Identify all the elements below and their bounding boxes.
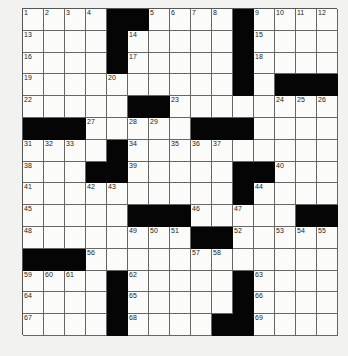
grid-cell[interactable] [65,205,86,227]
grid-cell[interactable] [44,96,65,118]
grid-cell[interactable] [275,140,296,162]
grid-cell[interactable] [317,314,338,336]
grid-cell[interactable]: 50 [149,227,170,249]
grid-cell[interactable]: 47 [233,205,254,227]
grid-cell[interactable] [275,314,296,336]
grid-cell[interactable] [86,140,107,162]
grid-cell[interactable]: 58 [212,249,233,271]
grid-cell[interactable]: 45 [23,205,44,227]
grid-cell[interactable] [317,183,338,205]
grid-cell[interactable] [191,292,212,314]
grid-cell[interactable]: 37 [212,140,233,162]
grid-cell[interactable] [296,53,317,75]
grid-cell[interactable]: 16 [23,53,44,75]
grid-cell[interactable]: 28 [128,118,149,140]
grid-cell[interactable] [149,314,170,336]
grid-cell[interactable] [170,292,191,314]
grid-cell[interactable]: 32 [44,140,65,162]
grid-cell[interactable]: 8 [212,9,233,31]
grid-cell[interactable] [275,249,296,271]
grid-cell[interactable]: 60 [44,271,65,293]
grid-cell[interactable] [107,249,128,271]
grid-cell[interactable]: 54 [296,227,317,249]
grid-cell[interactable]: 56 [86,249,107,271]
grid-cell[interactable]: 7 [191,9,212,31]
grid-cell[interactable] [212,183,233,205]
grid-cell[interactable] [233,249,254,271]
grid-cell[interactable] [149,249,170,271]
grid-cell[interactable] [191,271,212,293]
grid-cell[interactable] [86,271,107,293]
grid-cell[interactable]: 52 [233,227,254,249]
grid-cell[interactable]: 5 [149,9,170,31]
grid-cell[interactable] [149,140,170,162]
grid-cell[interactable] [191,96,212,118]
grid-cell[interactable] [86,292,107,314]
grid-cell[interactable] [149,53,170,75]
grid-cell[interactable]: 19 [23,74,44,96]
grid-cell[interactable]: 20 [107,74,128,96]
grid-cell[interactable]: 13 [23,31,44,53]
grid-cell[interactable]: 12 [317,9,338,31]
grid-cell[interactable] [317,53,338,75]
grid-cell[interactable]: 46 [191,205,212,227]
grid-cell[interactable] [128,249,149,271]
grid-cell[interactable]: 69 [254,314,275,336]
grid-cell[interactable] [254,74,275,96]
grid-cell[interactable]: 36 [191,140,212,162]
grid-cell[interactable]: 6 [170,9,191,31]
grid-cell[interactable] [65,227,86,249]
grid-cell[interactable] [170,74,191,96]
grid-cell[interactable]: 57 [191,249,212,271]
grid-cell[interactable]: 51 [170,227,191,249]
grid-cell[interactable] [170,314,191,336]
grid-cell[interactable]: 66 [254,292,275,314]
grid-cell[interactable] [317,118,338,140]
grid-cell[interactable] [254,96,275,118]
grid-cell[interactable] [149,74,170,96]
grid-cell[interactable] [296,292,317,314]
grid-cell[interactable]: 41 [23,183,44,205]
grid-cell[interactable]: 24 [275,96,296,118]
grid-cell[interactable] [233,140,254,162]
grid-cell[interactable] [212,162,233,184]
grid-cell[interactable] [86,314,107,336]
grid-cell[interactable] [233,96,254,118]
grid-cell[interactable] [296,118,317,140]
grid-cell[interactable] [170,31,191,53]
grid-cell[interactable] [275,292,296,314]
grid-cell[interactable] [44,205,65,227]
grid-cell[interactable]: 23 [170,96,191,118]
grid-cell[interactable]: 40 [275,162,296,184]
grid-cell[interactable] [254,118,275,140]
grid-cell[interactable] [275,31,296,53]
grid-cell[interactable]: 4 [86,9,107,31]
grid-cell[interactable]: 48 [23,227,44,249]
grid-cell[interactable] [191,53,212,75]
grid-cell[interactable] [170,118,191,140]
grid-cell[interactable] [65,53,86,75]
grid-cell[interactable] [86,205,107,227]
grid-cell[interactable]: 44 [254,183,275,205]
grid-cell[interactable]: 62 [128,271,149,293]
grid-cell[interactable] [86,74,107,96]
grid-cell[interactable] [44,31,65,53]
grid-cell[interactable] [149,183,170,205]
grid-cell[interactable] [296,183,317,205]
grid-cell[interactable] [212,31,233,53]
grid-cell[interactable] [128,74,149,96]
grid-cell[interactable] [296,31,317,53]
grid-cell[interactable]: 64 [23,292,44,314]
grid-cell[interactable]: 59 [23,271,44,293]
grid-cell[interactable]: 33 [65,140,86,162]
grid-cell[interactable]: 31 [23,140,44,162]
grid-cell[interactable] [191,162,212,184]
grid-cell[interactable]: 1 [23,9,44,31]
grid-cell[interactable]: 43 [107,183,128,205]
grid-cell[interactable] [44,314,65,336]
grid-cell[interactable]: 2 [44,9,65,31]
grid-cell[interactable] [86,227,107,249]
grid-cell[interactable] [296,249,317,271]
grid-cell[interactable] [275,205,296,227]
grid-cell[interactable] [296,162,317,184]
